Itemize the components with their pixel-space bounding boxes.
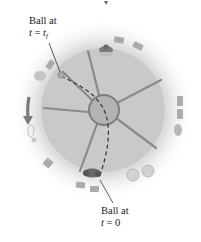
label-final-line1: Ball at: [29, 15, 57, 27]
label-ball-initial: Ball at t = 0: [101, 205, 129, 229]
ball-final: [58, 72, 64, 78]
hub: [89, 95, 119, 125]
label-final-line2: t = tf: [29, 27, 57, 42]
label-ball-final: Ball at t = tf: [29, 15, 57, 42]
person-thrower: [83, 169, 101, 178]
label-initial-line2: t = 0: [101, 217, 129, 229]
top-marker-icon: [104, 1, 108, 5]
label-initial-line1: Ball at: [101, 205, 129, 217]
